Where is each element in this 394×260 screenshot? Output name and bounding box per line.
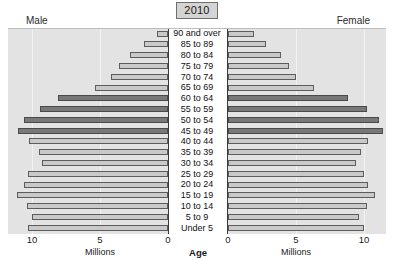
age-group-label: Under 5 bbox=[8, 223, 386, 233]
age-group-label: 90 and over bbox=[8, 28, 386, 38]
male-side-label: Male bbox=[26, 15, 48, 26]
age-group-label: 25 to 29 bbox=[8, 169, 386, 179]
age-group-label: 15 to 19 bbox=[8, 190, 386, 200]
pyramid-row: 85 to 89 bbox=[8, 40, 386, 51]
right-tick-label: 0 bbox=[225, 234, 230, 245]
pyramid-row: 15 to 19 bbox=[8, 191, 386, 202]
right-tick-label: 10 bbox=[359, 234, 370, 245]
age-group-label: 40 to 44 bbox=[8, 136, 386, 146]
age-group-label: 55 to 59 bbox=[8, 104, 386, 114]
right-tick-label: 5 bbox=[293, 234, 298, 245]
pyramid-row: 45 to 49 bbox=[8, 126, 386, 137]
age-group-label: 35 to 39 bbox=[8, 147, 386, 157]
pyramid-row: 80 to 84 bbox=[8, 51, 386, 62]
left-tick-label: 0 bbox=[165, 234, 170, 245]
pyramid-row: 50 to 54 bbox=[8, 115, 386, 126]
pyramid-row: 65 to 69 bbox=[8, 83, 386, 94]
pyramid-row: 40 to 44 bbox=[8, 137, 386, 148]
age-group-label: 10 to 14 bbox=[8, 201, 386, 211]
pyramid-row: 25 to 29 bbox=[8, 169, 386, 180]
pyramid-row: 35 to 39 bbox=[8, 148, 386, 159]
year-chip: 2010 bbox=[176, 2, 217, 19]
pyramid-row: 30 to 34 bbox=[8, 158, 386, 169]
pyramid-row: 90 and over bbox=[8, 29, 386, 40]
age-group-label: 60 to 64 bbox=[8, 93, 386, 103]
left-axis-unit: Millions bbox=[85, 247, 115, 257]
age-group-label: 45 to 49 bbox=[8, 126, 386, 136]
left-tick-label: 10 bbox=[27, 234, 38, 245]
age-group-label: 20 to 24 bbox=[8, 179, 386, 189]
right-axis-unit: Millions bbox=[281, 247, 311, 257]
age-group-label: 85 to 89 bbox=[8, 39, 386, 49]
age-group-label: 30 to 34 bbox=[8, 158, 386, 168]
pyramid-row: 70 to 74 bbox=[8, 72, 386, 83]
age-group-label: 70 to 74 bbox=[8, 72, 386, 82]
pyramid-row: 75 to 79 bbox=[8, 61, 386, 72]
age-group-label: 75 to 79 bbox=[8, 61, 386, 71]
chart-title-container: 2010 bbox=[0, 2, 394, 19]
population-pyramid-plot: 90 and over85 to 8980 to 8475 to 7970 to… bbox=[8, 28, 386, 234]
pyramid-row: 20 to 24 bbox=[8, 180, 386, 191]
pyramid-row: 5 to 9 bbox=[8, 212, 386, 223]
pyramid-row: 55 to 59 bbox=[8, 105, 386, 116]
axis-center-title: Age bbox=[189, 247, 207, 258]
female-side-label: Female bbox=[337, 15, 370, 26]
axis-area: 10500510MillionsAgeMillions bbox=[8, 233, 386, 260]
age-group-label: 65 to 69 bbox=[8, 82, 386, 92]
age-group-label: 80 to 84 bbox=[8, 50, 386, 60]
age-group-label: 5 to 9 bbox=[8, 212, 386, 222]
left-tick-label: 5 bbox=[97, 234, 102, 245]
pyramid-row: 60 to 64 bbox=[8, 94, 386, 105]
pyramid-row: 10 to 14 bbox=[8, 202, 386, 213]
age-group-label: 50 to 54 bbox=[8, 115, 386, 125]
